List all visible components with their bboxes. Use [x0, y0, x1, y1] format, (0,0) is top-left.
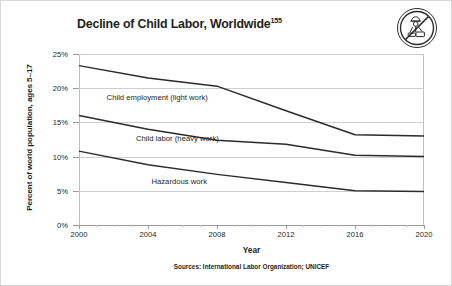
x-tick-label: 2012 — [278, 230, 295, 239]
x-tick-mark-minor — [131, 225, 132, 227]
x-tick-mark — [424, 225, 425, 229]
x-tick-mark-minor — [407, 225, 408, 227]
y-tick-label: 5% — [28, 186, 68, 195]
chart-title-footnote: 155 — [271, 16, 282, 25]
x-tick-mark-minor — [338, 225, 339, 227]
x-tick-mark-minor — [390, 225, 391, 227]
x-tick-mark-minor — [321, 225, 322, 227]
y-tick-label: 10% — [28, 152, 68, 161]
x-tick-label: 2020 — [416, 230, 433, 239]
plot-area — [79, 54, 424, 225]
chart-title: Decline of Child Labor, Worldwide155 — [77, 17, 282, 31]
series-label: Child employment (light work) — [107, 93, 208, 102]
x-tick-label: 2008 — [209, 230, 226, 239]
x-tick-mark — [79, 225, 80, 229]
y-tick-label: 25% — [28, 50, 68, 59]
chart-figure: Decline of Child Labor, Worldwide155 Per… — [0, 0, 452, 286]
y-tick-label: 15% — [28, 118, 68, 127]
x-tick-mark-minor — [234, 225, 235, 227]
y-tick-label: 20% — [28, 84, 68, 93]
x-tick-mark — [286, 225, 287, 229]
x-tick-label: 2000 — [71, 230, 88, 239]
x-tick-mark — [355, 225, 356, 229]
x-tick-mark-minor — [303, 225, 304, 227]
no-child-labor-icon — [396, 7, 438, 49]
series-line — [79, 151, 424, 191]
x-axis-label: Year — [79, 245, 424, 255]
y-tick-label: 0% — [28, 221, 68, 230]
x-tick-mark-minor — [200, 225, 201, 227]
x-tick-mark — [148, 225, 149, 229]
x-tick-label: 2016 — [347, 230, 364, 239]
y-axis-label: Percent of world population, ages 5–17 — [25, 48, 34, 228]
x-tick-mark-minor — [269, 225, 270, 227]
x-tick-mark-minor — [252, 225, 253, 227]
series-lines — [79, 54, 424, 225]
x-tick-mark-minor — [372, 225, 373, 227]
x-tick-mark-minor — [165, 225, 166, 227]
x-tick-label: 2004 — [140, 230, 157, 239]
series-label: Hazardous work — [151, 177, 207, 186]
x-tick-mark — [217, 225, 218, 229]
source-note: Sources: International Labor Organizatio… — [79, 263, 424, 270]
x-tick-mark-minor — [114, 225, 115, 227]
x-tick-mark-minor — [183, 225, 184, 227]
x-tick-mark-minor — [96, 225, 97, 227]
series-line — [79, 116, 424, 157]
series-label: Child labor (heavy work) — [136, 134, 219, 143]
chart-title-text: Decline of Child Labor, Worldwide — [77, 17, 271, 31]
